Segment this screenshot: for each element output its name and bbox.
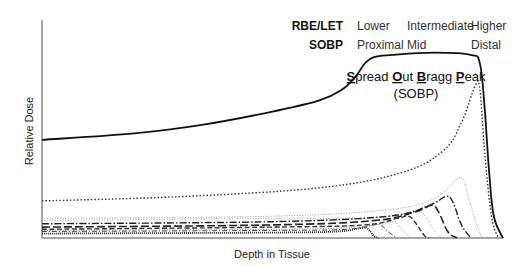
y-axis-title: Relative Dose bbox=[23, 97, 35, 165]
header-sobp-distal: Distal bbox=[471, 38, 501, 52]
header-label-rbe-let: RBE/LET bbox=[292, 19, 344, 33]
header-rbe-higher: Higher bbox=[471, 19, 506, 33]
series-line-bragg-peak-9 bbox=[42, 227, 379, 238]
header-sobp-mid: Mid bbox=[407, 38, 426, 52]
series-line-bragg-peak-2 bbox=[42, 177, 485, 238]
sobp-title: Spread Out Bragg Peak bbox=[347, 69, 486, 84]
sobp-subtitle: (SOBP) bbox=[394, 86, 439, 101]
sobp-chart: RBE/LET Lower Intermediate Higher SOBP P… bbox=[0, 0, 525, 266]
header-rbe-lower: Lower bbox=[357, 19, 390, 33]
header-rbe-intermediate: Intermediate bbox=[407, 19, 474, 33]
series-line-bragg-peak-1-deepest-largest bbox=[42, 81, 498, 238]
header-label-sobp: SOBP bbox=[309, 38, 343, 52]
series-line-bragg-peak-3 bbox=[42, 196, 471, 238]
x-axis-title: Depth in Tissue bbox=[234, 248, 310, 260]
header-sobp-proximal: Proximal bbox=[357, 38, 404, 52]
